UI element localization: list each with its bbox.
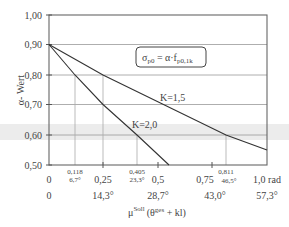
svg-text:23,3°: 23,3° bbox=[129, 176, 144, 184]
svg-text:0,811: 0,811 bbox=[218, 168, 234, 176]
annotation-46-5: 46,5° bbox=[221, 177, 236, 185]
svg-text:0,25: 0,25 bbox=[94, 174, 112, 185]
svg-text:6,7°: 6,7° bbox=[69, 176, 81, 184]
svg-text:0,405: 0,405 bbox=[129, 168, 145, 176]
svg-text:0,50: 0,50 bbox=[25, 160, 43, 171]
plot-frame bbox=[49, 15, 267, 165]
y-axis-label: α- Wert bbox=[15, 75, 26, 105]
svg-text:0,118: 0,118 bbox=[67, 168, 83, 176]
svg-text:57,3°: 57,3° bbox=[256, 190, 278, 201]
svg-text:0,90: 0,90 bbox=[25, 39, 43, 50]
svg-text:28,7°: 28,7° bbox=[147, 190, 169, 201]
svg-text:43,0°: 43,0° bbox=[204, 190, 226, 201]
x-tick-labels-deg: 0 14,3° 28,7° 43,0° 57,3° bbox=[47, 190, 278, 201]
svg-text:0: 0 bbox=[47, 174, 52, 185]
y-tick-labels: 1,00 0,90 0,80 0,70 0,60 0,50 bbox=[25, 10, 43, 171]
alpha-chart: 1,00 0,90 0,80 0,70 0,60 0,50 α- Wert 0,… bbox=[0, 0, 289, 227]
svg-text:0,5: 0,5 bbox=[152, 174, 165, 185]
svg-text:0,60: 0,60 bbox=[25, 130, 43, 141]
x-axis-label: μSoll(θges + kl) bbox=[128, 205, 186, 219]
svg-text:1,00: 1,00 bbox=[25, 10, 43, 21]
svg-text:0: 0 bbox=[47, 190, 52, 201]
label-k20: K=2,0 bbox=[132, 119, 157, 130]
svg-text:0,80: 0,80 bbox=[25, 70, 43, 81]
svg-text:0,70: 0,70 bbox=[25, 99, 43, 110]
label-k15: K=1,5 bbox=[160, 92, 185, 103]
svg-text:0,75: 0,75 bbox=[196, 174, 214, 185]
svg-text:1,0 rad: 1,0 rad bbox=[253, 174, 281, 185]
svg-text:14,3°: 14,3° bbox=[92, 190, 114, 201]
